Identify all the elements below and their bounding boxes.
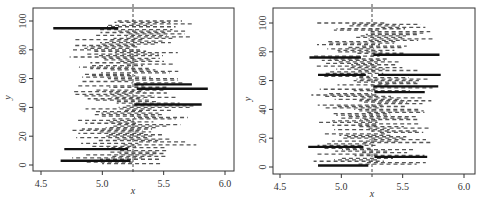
- interval-segments: [70, 21, 197, 164]
- x-axis-label: x: [130, 185, 136, 196]
- confidence-interval-charts: 4.55.05.56.0020406080100xy4.55.05.56.002…: [0, 0, 483, 203]
- x-tick-label: 5.5: [157, 178, 170, 189]
- x-tick-label: 5.0: [335, 181, 348, 192]
- x-axis-label: x: [369, 188, 375, 199]
- x-tick-label: 6.0: [219, 178, 232, 189]
- y-tick-label: 40: [257, 104, 268, 114]
- x-tick-label: 4.5: [274, 181, 287, 192]
- y-tick-label: 60: [257, 76, 268, 86]
- y-axis-label: y: [2, 95, 13, 101]
- y-tick-label: 20: [257, 133, 268, 143]
- chart-panel-1: 4.55.05.56.0020406080100xy: [2, 4, 234, 196]
- chart-panel-2: 4.55.05.56.0020406080100xy: [242, 4, 475, 199]
- y-tick-label: 0: [17, 163, 28, 168]
- y-tick-label: 80: [257, 47, 268, 57]
- y-tick-label: 60: [17, 74, 28, 84]
- y-tick-label: 20: [17, 131, 28, 141]
- x-tick-label: 4.5: [35, 178, 48, 189]
- y-tick-label: 100: [257, 16, 268, 31]
- x-tick-label: 5.0: [96, 178, 109, 189]
- y-axis-label: y: [242, 96, 253, 102]
- y-tick-label: 80: [17, 45, 28, 55]
- y-tick-label: 40: [17, 102, 28, 112]
- y-tick-label: 100: [17, 14, 28, 29]
- y-tick-label: 0: [257, 165, 268, 170]
- x-tick-label: 5.5: [396, 181, 409, 192]
- x-tick-label: 6.0: [458, 181, 471, 192]
